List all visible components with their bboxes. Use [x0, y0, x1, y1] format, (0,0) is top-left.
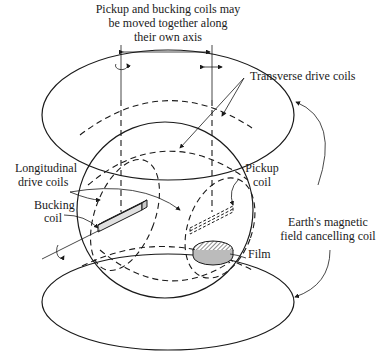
rotation-arrow-icon [116, 64, 128, 70]
label-bucking-1: Bucking [34, 198, 75, 212]
label-film: Film [248, 247, 271, 261]
label-bucking-2: coil [44, 211, 63, 225]
label-longitudinal-1: Longitudinal [15, 161, 78, 175]
label-pickup-2: coil [253, 175, 272, 189]
transverse-coil-top [80, 101, 252, 135]
label-motion-3: their own axis [134, 30, 202, 44]
leader-earth-2 [295, 250, 330, 297]
leader-pickup [231, 180, 238, 205]
diagram-svg: Pickup and bucking coils may be moved to… [0, 0, 385, 357]
label-earth-1: Earth's magnetic [288, 215, 368, 229]
film-disk [193, 241, 233, 265]
label-transverse: Transverse drive coils [250, 69, 356, 83]
bottom-cancelling-coil [42, 254, 294, 350]
label-earth-2: field cancelling coil [280, 229, 376, 243]
leader-longitudinal-2 [70, 189, 180, 210]
label-longitudinal-2: drive coils [18, 175, 69, 189]
label-motion-1: Pickup and bucking coils may [96, 2, 241, 16]
leader-transverse-2 [222, 78, 244, 116]
bucking-coil [98, 200, 147, 232]
leader-bucking [64, 215, 98, 228]
label-motion-2: be moved together along [109, 16, 228, 30]
magnetometer-diagram: Pickup and bucking coils may be moved to… [0, 0, 385, 357]
leader-earth [296, 102, 325, 185]
label-pickup-1: Pickup [245, 161, 278, 175]
